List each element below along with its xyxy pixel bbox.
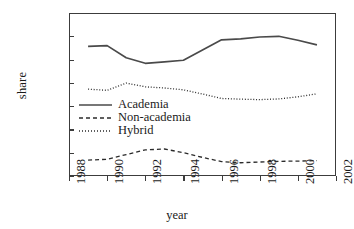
- x-tick-mark: [145, 176, 146, 181]
- x-tick-mark: [222, 176, 223, 181]
- x-tick-mark: [336, 176, 337, 181]
- plot-area: [69, 13, 336, 176]
- x-tick-mark: [183, 176, 184, 181]
- x-tick-mark: [107, 176, 108, 181]
- series-lines: [69, 13, 336, 176]
- y-axis-tick-labels: 0.0000.1000.2000.3000.4000.5000.6000.700: [0, 0, 66, 229]
- chart-legend: Academia Non-academia Hybrid: [78, 98, 191, 137]
- x-tick-mark: [260, 176, 261, 181]
- x-tick-mark: [298, 176, 299, 181]
- legend-label-hybrid: Hybrid: [118, 124, 153, 137]
- legend-key-solid-icon: [78, 99, 113, 110]
- series-line-academia: [88, 36, 317, 63]
- x-tick-label: 2002: [341, 159, 354, 184]
- legend-key-dashed-icon: [78, 112, 113, 123]
- series-line-non-academia: [88, 149, 317, 163]
- legend-key-dotted-icon: [78, 125, 113, 136]
- x-tick-mark: [69, 176, 70, 181]
- chart-container: share year 0.0000.1000.2000.3000.4000.50…: [0, 0, 354, 229]
- legend-item-hybrid: Hybrid: [78, 124, 191, 137]
